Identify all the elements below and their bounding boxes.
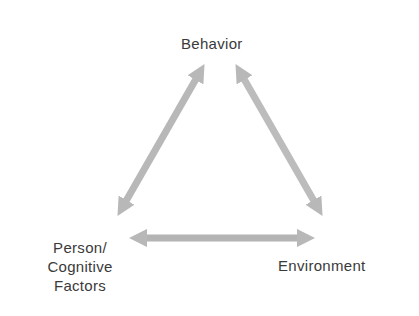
node-environment: Environment: [278, 256, 366, 275]
person-line-1: Person/: [30, 238, 130, 257]
arrow-behavior-environment: [240, 72, 318, 208]
person-line-3: Factors: [30, 276, 130, 295]
arrow-behavior-person: [122, 72, 200, 208]
person-line-2: Cognitive: [30, 257, 130, 276]
node-behavior: Behavior: [181, 34, 243, 53]
node-person-cognitive-factors: Person/ Cognitive Factors: [30, 238, 130, 295]
